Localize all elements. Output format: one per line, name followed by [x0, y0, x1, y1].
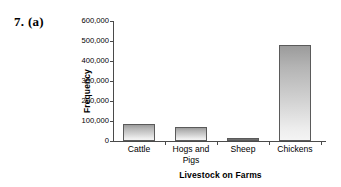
y-axis-tick-mark	[110, 121, 114, 122]
y-axis-tick-label: 500,000	[82, 36, 109, 46]
bar	[227, 138, 259, 141]
x-axis-tick-label: Hogs and Pigs	[165, 144, 217, 166]
y-axis-tick-mark	[110, 61, 114, 62]
y-axis-tick-label: 100,000	[82, 116, 109, 126]
y-axis-title-wrapper: Frequency	[54, 40, 66, 116]
plot-area	[113, 21, 321, 141]
x-axis-title: Livestock on Farms	[113, 170, 328, 180]
bar	[123, 124, 155, 141]
y-axis-tick-mark	[110, 141, 114, 142]
bar-chart-figure: Frequency 0100,000200,000300,000400,0005…	[0, 0, 341, 187]
x-axis-tick-labels: CattleHogs and PigsSheepChickens	[113, 144, 328, 170]
x-axis-line	[113, 141, 326, 142]
x-axis-tick-label: Sheep	[217, 144, 269, 155]
x-axis-tick-label: Cattle	[113, 144, 165, 155]
bar	[279, 45, 311, 141]
y-axis-tick-label: 0	[105, 136, 109, 146]
y-axis-tick-label: 300,000	[82, 76, 109, 86]
y-axis-tick-label: 400,000	[82, 56, 109, 66]
y-axis-tick-labels: 0100,000200,000300,000400,000500,000600,…	[66, 16, 112, 142]
y-axis-tick-mark	[110, 101, 114, 102]
y-axis-tick-label: 200,000	[82, 96, 109, 106]
y-axis-tick-mark	[110, 81, 114, 82]
x-axis-tick-label: Chickens	[269, 144, 321, 155]
bar	[175, 127, 207, 141]
y-axis-tick-label: 600,000	[82, 16, 109, 26]
y-axis-tick-mark	[110, 21, 114, 22]
y-axis-tick-mark	[110, 41, 114, 42]
